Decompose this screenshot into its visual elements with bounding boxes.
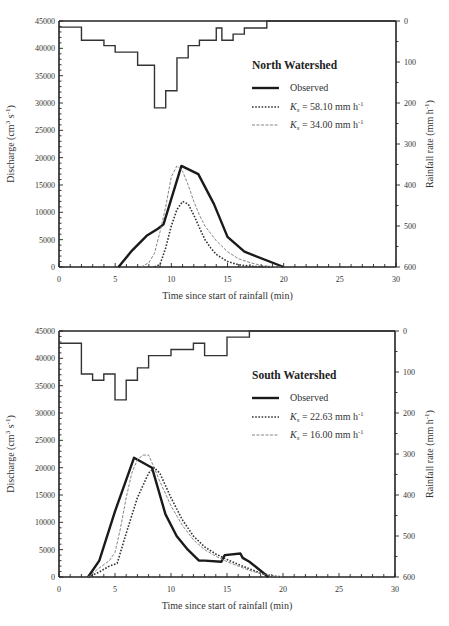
x-tick-label: 20	[279, 585, 287, 594]
y-tick-label: 45000	[35, 327, 55, 336]
y-tick-label: 45000	[35, 17, 55, 26]
x-tick-label: 10	[167, 585, 175, 594]
panel-title: South Watershed	[252, 369, 337, 381]
legend-label-ks-high: Ks = 22.63 mm h-1	[289, 410, 364, 424]
series-ks-low	[141, 166, 284, 267]
y-tick-label: 15000	[35, 491, 55, 500]
x-axis-title: Time since start of rainfall (min)	[162, 290, 292, 302]
x-tick-label: 15	[223, 585, 231, 594]
y2-tick-label: 200	[404, 99, 416, 108]
y-tick-label: 15000	[35, 181, 55, 190]
y-tick-label: 5000	[39, 546, 55, 555]
y-tick-label: 35000	[35, 72, 55, 81]
y-tick-label: 20000	[35, 464, 55, 473]
panel-title: North Watershed	[252, 59, 338, 71]
y2-tick-label: 200	[403, 409, 415, 418]
y2-tick-label: 0	[404, 17, 408, 26]
series-ks-high	[155, 201, 273, 267]
x-axis-title: Time since start of rainfall (min)	[162, 600, 292, 612]
x-tick-label: 5	[113, 275, 117, 284]
y-tick-label: 30000	[35, 99, 55, 108]
series-ks-low	[88, 455, 283, 577]
y2-tick-label: 300	[403, 450, 415, 459]
y-tick-label: 30000	[35, 409, 55, 418]
y-tick-label: 10000	[35, 208, 55, 217]
series-observed	[88, 458, 268, 577]
y2-tick-label: 0	[403, 327, 407, 336]
x-tick-label: 5	[113, 585, 117, 594]
legend-label-observed: Observed	[290, 82, 328, 93]
y-tick-label: 5000	[39, 236, 55, 245]
x-tick-label: 0	[57, 585, 61, 594]
y-tick-label: 25000	[35, 436, 55, 445]
series-observed	[119, 166, 284, 267]
y2-tick-label: 500	[404, 222, 416, 231]
x-tick-label: 25	[335, 585, 343, 594]
y-tick-label: 40000	[35, 354, 55, 363]
y2-axis-title: Rainfall rate (mm h-1)	[423, 100, 436, 188]
legend-label-ks-high: Ks = 58.10 mm h-1	[289, 100, 364, 114]
legend-label-observed: Observed	[290, 392, 328, 403]
legend-label-ks-low: Ks = 34.00 mm h-1	[289, 118, 364, 132]
y-tick-label: 0	[51, 573, 55, 582]
y2-tick-label: 400	[404, 181, 416, 190]
x-tick-label: 30	[391, 585, 399, 594]
y2-tick-label: 300	[404, 140, 416, 149]
x-tick-label: 25	[336, 275, 344, 284]
y-tick-label: 20000	[35, 154, 55, 163]
panel-south-watershed: 0500010000150002000025000300003500040000…	[4, 327, 436, 612]
hyetograph-rainfall	[59, 21, 396, 108]
y2-tick-label: 600	[404, 263, 416, 272]
legend-label-ks-low: Ks = 16.00 mm h-1	[289, 428, 364, 442]
x-tick-label: 30	[392, 275, 400, 284]
y2-tick-label: 600	[403, 573, 415, 582]
y-tick-label: 10000	[35, 518, 55, 527]
x-tick-label: 15	[224, 275, 232, 284]
x-tick-label: 20	[280, 275, 288, 284]
y2-tick-label: 500	[403, 532, 415, 541]
y-axis-title: Discharge (cm3 s-1)	[4, 105, 17, 183]
series-ks-high	[88, 468, 283, 577]
y-tick-label: 0	[51, 263, 55, 272]
y2-tick-label: 100	[403, 368, 415, 377]
hyetograph-rainfall	[59, 331, 395, 400]
hydrograph-figure: 0500010000150002000025000300003500040000…	[0, 0, 449, 626]
panel-north-watershed: 0500010000150002000025000300003500040000…	[4, 17, 436, 302]
y2-tick-label: 400	[403, 491, 415, 500]
y-axis-title: Discharge (cm3 s-1)	[4, 415, 17, 493]
y-tick-label: 35000	[35, 382, 55, 391]
y2-axis-title: Rainfall rate (mm h-1)	[423, 410, 436, 498]
y-tick-label: 40000	[35, 44, 55, 53]
y2-tick-label: 100	[404, 58, 416, 67]
x-tick-label: 0	[57, 275, 61, 284]
x-tick-label: 10	[167, 275, 175, 284]
y-tick-label: 25000	[35, 126, 55, 135]
